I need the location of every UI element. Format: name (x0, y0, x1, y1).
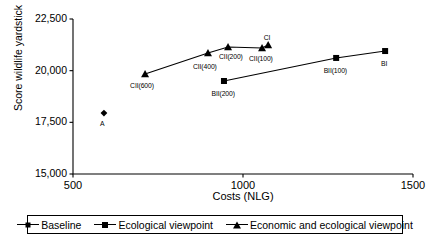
data-point-label: CII(200) (219, 53, 243, 60)
data-point-label: CII(400) (193, 63, 217, 70)
legend-entry-2[interactable]: Economic and ecological viewpoint (226, 219, 413, 231)
series-0 (101, 110, 108, 117)
data-point-label: CII(600) (130, 82, 154, 89)
legend-label: Ecological viewpoint (117, 219, 213, 231)
square-marker-icon (94, 220, 116, 230)
chart-legend: BaselineEcological viewpointEconomic and… (27, 215, 403, 234)
legend-label: Economic and ecological viewpoint (249, 219, 413, 231)
data-point-label: BII(100) (324, 67, 347, 74)
data-point-label: CII(100) (249, 55, 273, 62)
diamond-marker-icon (17, 220, 39, 230)
y-tick-label: 17,500 (7, 115, 67, 127)
x-tick-label: 1000 (213, 179, 273, 191)
series-1 (221, 48, 388, 84)
triangle-marker-icon (226, 220, 248, 230)
legend-label: Baseline (40, 219, 81, 231)
data-point-label: BI (381, 60, 387, 67)
x-tick-label: 1500 (383, 179, 436, 191)
legend-entry-1[interactable]: Ecological viewpoint (94, 219, 213, 231)
chart-container: Score wildlife yardstick Costs (NLG) 15,… (0, 0, 436, 248)
y-tick-label: 22,500 (7, 12, 67, 24)
legend-entry-0[interactable]: Baseline (17, 219, 81, 231)
y-tick-label: 20,000 (7, 64, 67, 76)
data-point-label: A (100, 120, 104, 127)
x-tick-label: 500 (43, 179, 103, 191)
data-point-label: BII(200) (211, 90, 234, 97)
y-tick-label: 15,000 (7, 167, 67, 179)
data-point-label: CI (264, 34, 271, 41)
